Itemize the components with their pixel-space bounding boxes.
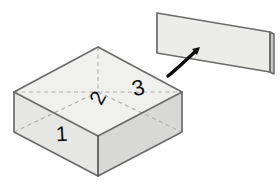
- face-label-1: 1: [55, 122, 68, 146]
- diagram-canvas: 123: [0, 0, 280, 190]
- isometric-box: [14, 47, 182, 176]
- isometric-slab-diagram: 123: [0, 0, 280, 190]
- extracted-plane: [157, 13, 274, 74]
